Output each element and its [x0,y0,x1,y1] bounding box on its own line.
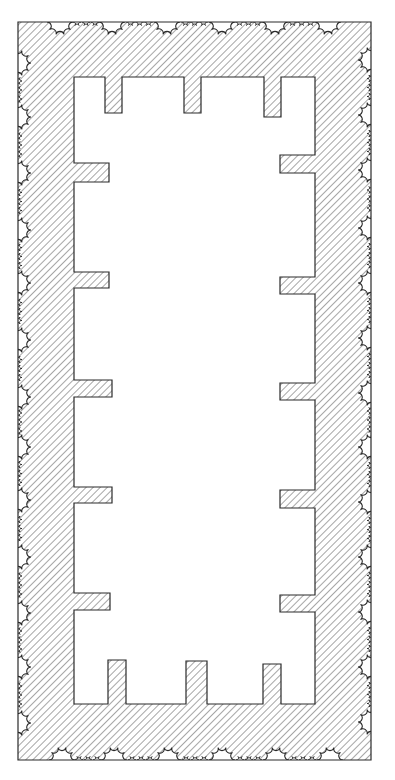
floor-plan-diagram: Temple floor plan (peripteral colonnade,… [0,0,395,780]
floor-plan-canvas [0,0,395,780]
hatched-wall [18,22,371,760]
wall-mass [18,22,371,760]
